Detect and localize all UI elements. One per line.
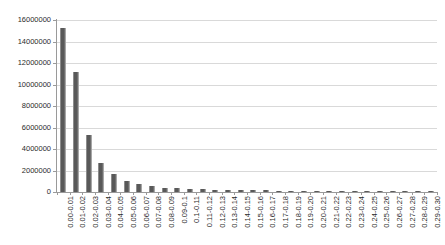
x-axis-tick-mark <box>184 192 185 195</box>
bar <box>225 190 231 192</box>
bar <box>301 191 307 192</box>
bar <box>339 191 345 192</box>
bar <box>364 191 370 192</box>
y-axis-tick-label: 0 <box>0 188 51 196</box>
bar <box>428 191 434 192</box>
x-axis-tick-mark <box>412 192 413 195</box>
x-axis-tick-mark <box>323 192 324 195</box>
x-axis-tick-label: 0.26-0.27 <box>396 196 404 228</box>
x-axis-tick-mark <box>82 192 83 195</box>
bar <box>212 190 218 192</box>
x-axis-tick-label: 0.1-0.11 <box>193 196 201 223</box>
x-axis-tick-label: 0.14-0.15 <box>244 196 252 228</box>
x-axis-tick-mark <box>70 192 71 195</box>
bar <box>98 163 104 192</box>
x-axis-tick-mark <box>298 192 299 195</box>
x-axis-tick-label: 0.02-0.03 <box>92 196 100 228</box>
x-axis-tick-label: 0.27-0.28 <box>409 196 417 228</box>
x-axis-tick-label: 0.24-0.25 <box>371 196 379 228</box>
x-axis-tick-mark <box>374 192 375 195</box>
x-axis-tick-mark <box>272 192 273 195</box>
x-axis-tick-mark <box>133 192 134 195</box>
bar <box>60 28 66 192</box>
x-axis-tick-mark <box>386 192 387 195</box>
x-axis-tick-mark <box>399 192 400 195</box>
x-axis-tick-label: 0.18-0.19 <box>295 196 303 228</box>
x-axis-tick-label: 0.20-0.21 <box>320 196 328 228</box>
y-axis-tick-label: 16000000 <box>0 16 51 24</box>
x-axis-tick-mark <box>437 192 438 195</box>
bar <box>415 191 421 192</box>
bar <box>174 188 180 192</box>
bar <box>200 189 206 192</box>
x-axis-tick-label: 0.08-0.09 <box>168 196 176 228</box>
x-axis-tick-mark <box>57 192 58 195</box>
x-axis-tick-mark <box>171 192 172 195</box>
bar <box>73 72 79 192</box>
x-axis-tick-mark <box>336 192 337 195</box>
x-axis-tick-label: 0.03-0.04 <box>105 196 113 228</box>
x-axis-tick-mark <box>196 192 197 195</box>
x-axis-tick-label: 0.11-0.12 <box>206 196 214 227</box>
bar <box>187 189 193 192</box>
x-axis-tick-label: 0.00-0.01 <box>67 196 75 228</box>
x-axis-tick-label: 0.04-0.05 <box>117 196 125 228</box>
x-axis-tick-mark <box>120 192 121 195</box>
bar <box>238 190 244 192</box>
x-axis-tick-mark <box>234 192 235 195</box>
x-axis-tick-label: 0.05-0.06 <box>130 196 138 228</box>
x-axis-tick-label: 0.29-0.30 <box>434 196 442 228</box>
plot-area <box>57 20 437 192</box>
y-axis-tick-label: 4000000 <box>0 145 51 153</box>
x-axis-tick-label: 0.28-0.29 <box>421 196 429 228</box>
x-axis-tick-label: 0.01-0.02 <box>79 196 87 228</box>
x-axis-tick-mark <box>158 192 159 195</box>
x-axis-tick-label: 0.25-0.26 <box>383 196 391 228</box>
y-axis-tick-label: 6000000 <box>0 124 51 132</box>
x-axis-tick-mark <box>247 192 248 195</box>
x-axis-tick-label: 0.12-0.13 <box>219 196 227 228</box>
x-axis-tick-mark <box>285 192 286 195</box>
x-axis-tick-mark <box>348 192 349 195</box>
x-axis-tick-mark <box>424 192 425 195</box>
bar <box>402 191 408 192</box>
y-axis-tick-label: 2000000 <box>0 167 51 175</box>
bar <box>377 191 383 192</box>
x-axis-tick-mark <box>95 192 96 195</box>
bar <box>263 190 269 192</box>
x-axis-tick-label: 0.07-0.08 <box>155 196 163 228</box>
x-axis-tick-label: 0.06-0.07 <box>143 196 151 228</box>
bar <box>149 186 155 192</box>
x-axis-tick-mark <box>108 192 109 195</box>
x-axis-tick-label: 0.21-0.22 <box>333 196 341 228</box>
x-axis-tick-mark <box>146 192 147 195</box>
bar <box>124 181 130 192</box>
x-axis-tick-mark <box>209 192 210 195</box>
y-axis-tick-label: 10000000 <box>0 81 51 89</box>
bar <box>390 191 396 192</box>
bar <box>162 188 168 192</box>
x-axis-tick-label: 0.16-0.17 <box>269 196 277 228</box>
x-axis-tick-label: 0.19-0.20 <box>307 196 315 228</box>
x-axis-tick-mark <box>361 192 362 195</box>
x-axis-tick-label: 0.15-0.16 <box>257 196 265 228</box>
x-axis-tick-label: 0.22-0.23 <box>345 196 353 228</box>
x-axis-tick-mark <box>310 192 311 195</box>
bar <box>326 191 332 192</box>
bar <box>352 191 358 192</box>
x-axis-tick-label: 0.17-0.18 <box>282 196 290 228</box>
x-axis-tick-label: 0.23-0.24 <box>358 196 366 228</box>
y-axis-tick-label: 8000000 <box>0 102 51 110</box>
y-axis-tick-label: 12000000 <box>0 59 51 67</box>
bar <box>288 191 294 192</box>
bar-chart: 0200000040000006000000800000010000000120… <box>0 0 445 245</box>
x-axis-tick-label: 0.13-0.14 <box>231 196 239 228</box>
y-axis-tick-label: 14000000 <box>0 38 51 46</box>
bar <box>314 191 320 192</box>
x-axis-tick-label: 0.09-0.1 <box>181 196 189 224</box>
bar <box>86 135 92 192</box>
bar <box>276 191 282 193</box>
x-axis-tick-mark <box>260 192 261 195</box>
x-axis-tick-mark <box>222 192 223 195</box>
bar <box>136 184 142 192</box>
